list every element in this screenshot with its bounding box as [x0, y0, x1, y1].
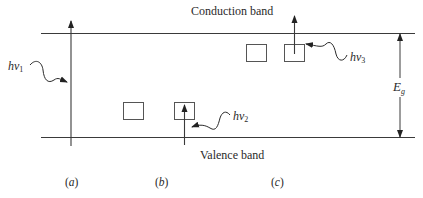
energy-gap-subscript: g — [401, 87, 405, 96]
impurity-level-b1 — [124, 103, 144, 120]
photon-label-hv3: hν3 — [350, 51, 365, 65]
photon-symbol: hν — [233, 109, 244, 123]
photon-subscript: 1 — [19, 65, 23, 74]
photon-symbol: hν — [350, 50, 361, 64]
photon-subscript: 2 — [244, 115, 248, 124]
photon-label-hv1: hν1 — [8, 60, 23, 74]
energy-gap-symbol: E — [393, 79, 401, 94]
energy-gap-label: Eg — [393, 80, 405, 96]
photon-symbol: hν — [8, 59, 19, 73]
photon-subscript: 3 — [361, 56, 365, 65]
band-diagram: Conduction band Valence band hν1 hν2 hν3… — [0, 0, 423, 198]
band-diagram-graphics — [0, 0, 423, 198]
paren-close: ) — [75, 176, 79, 188]
panel-label-a: (a) — [65, 177, 78, 189]
paren-close: ) — [280, 176, 284, 188]
conduction-band-label: Conduction band — [191, 5, 273, 17]
paren-close: ) — [165, 176, 169, 188]
valence-band-label: Valence band — [200, 149, 264, 161]
photon-wave-hv3 — [306, 42, 347, 60]
panel-label-c: (c) — [271, 177, 284, 189]
panel-label-b: (b) — [155, 177, 168, 189]
photon-wave-hv2 — [192, 112, 230, 129]
photon-label-hv2: hν2 — [233, 110, 248, 124]
impurity-level-c1 — [247, 45, 267, 62]
photon-wave-hv1 — [30, 61, 67, 82]
